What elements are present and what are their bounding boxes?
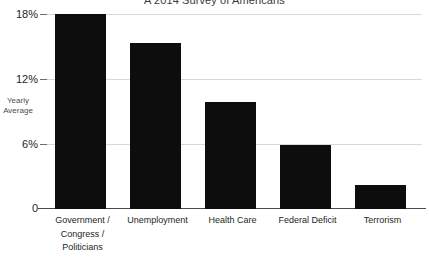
y-axis-label-0: 0 [0,203,38,214]
y-axis-label-18: 18% [0,9,38,20]
bar-series [47,14,422,209]
x-axis-label-line: Terrorism [343,214,422,228]
y-tick-mark-12 [40,79,47,80]
bar-slot [272,14,347,209]
bar-terrorism [355,185,406,209]
y-tick-mark-6 [40,144,47,145]
x-axis-label-line: Politicians [43,241,122,255]
x-axis-label-line: Unemployment [118,214,197,228]
x-axis-label-line: Government / [43,214,122,228]
bar-chart: A 2014 Survey of Americans 18% 12% 6% 0 … [0,0,429,266]
bar-health-care [205,102,256,209]
y-axis-label-6: 6% [0,139,38,150]
plot-area: 18% 12% 6% 0 Yearly Average [47,14,422,209]
y-axis-title-line-1: Yearly [0,96,40,106]
bar-slot [122,14,197,209]
x-axis-label-health-care: Health Care [193,214,272,228]
bar-federal-deficit [280,145,331,209]
x-axis-label-federal-deficit: Federal Deficit [268,214,347,228]
x-axis-labels: Government / Congress / Politicians Unem… [47,214,422,264]
y-axis-title-line-2: Average [0,106,40,116]
x-axis-label-line: Health Care [193,214,272,228]
chart-title: A 2014 Survey of Americans [0,0,429,6]
y-axis-title: Yearly Average [0,96,40,116]
bar-unemployment [130,43,181,209]
x-axis-label-terrorism: Terrorism [343,214,422,228]
x-axis-label-line: Congress / [43,228,122,242]
bar-government-congress-politicians [55,14,106,209]
bar-slot [197,14,272,209]
x-axis-label-unemployment: Unemployment [118,214,197,228]
y-axis-label-12: 12% [0,74,38,85]
x-axis-label-line: Federal Deficit [268,214,347,228]
bar-slot [47,14,122,209]
y-tick-mark-18 [40,14,47,15]
x-axis-label-government-congress-politicians: Government / Congress / Politicians [43,214,122,255]
bar-slot [347,14,422,209]
